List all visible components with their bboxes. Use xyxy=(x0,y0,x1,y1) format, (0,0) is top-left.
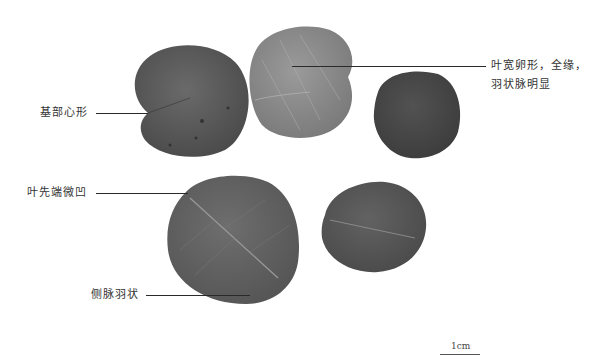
leaf-4 xyxy=(167,176,299,304)
leaf-2 xyxy=(249,27,352,138)
leaf-1 xyxy=(135,45,249,157)
scale-bar-label: 1cm xyxy=(451,341,470,351)
label-apex-emarginate: 叶先端微凹 xyxy=(27,185,87,201)
leader-line-lateral-veins xyxy=(146,295,250,296)
label-base-cordate: 基部心形 xyxy=(40,105,88,121)
label-leaf-shape-line2: 羽状脉明显 xyxy=(491,77,551,93)
specimen-figure: 基部心形 叶宽卵形，全缘， 羽状脉明显 叶先端微凹 侧脉羽状 1cm xyxy=(0,0,615,359)
leaf-5 xyxy=(322,182,427,272)
leaf-3 xyxy=(374,71,460,158)
label-lateral-veins: 侧脉羽状 xyxy=(91,287,139,303)
scale-bar-line xyxy=(440,354,480,355)
leader-line-apex-emarginate xyxy=(96,193,188,194)
leader-line-leaf-shape xyxy=(292,66,486,67)
label-leaf-shape-line1: 叶宽卵形，全缘， xyxy=(491,58,587,74)
leaf-specimen-top-left xyxy=(0,0,615,359)
leader-line-base-cordate xyxy=(96,113,148,114)
